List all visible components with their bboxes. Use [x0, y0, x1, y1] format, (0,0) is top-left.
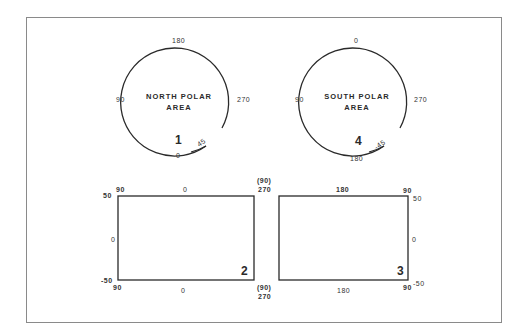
equatorial-rect-3	[279, 196, 408, 280]
rect2-top-right-paren: (90)	[257, 177, 271, 184]
rect2-bottom-right-paren: (90)	[257, 284, 271, 291]
rect2-top-center: 0	[183, 186, 187, 193]
rect3-top-right-lat: 50	[413, 195, 422, 202]
rect2-bottom-left-lat: -50	[101, 277, 113, 284]
north-title: NORTH POLAR AREA	[139, 92, 219, 112]
north-label-right: 270	[237, 96, 250, 103]
south-title: SOUTH POLAR AREA	[317, 92, 397, 112]
panel-number-3: 3	[397, 264, 404, 278]
north-label-top: 180	[172, 37, 185, 44]
rect2-top-right: 270	[258, 186, 271, 193]
south-title-line2: AREA	[317, 103, 397, 112]
equatorial-rect-2	[118, 196, 254, 280]
north-label-left: 90	[116, 96, 125, 103]
north-title-line2: AREA	[139, 103, 219, 112]
north-label-bottom: 0	[176, 152, 180, 159]
rect2-bottom-left-lon: 90	[113, 284, 122, 291]
south-label-right: 270	[414, 96, 427, 103]
south-title-line1: SOUTH POLAR	[317, 92, 397, 101]
diagram-lines	[0, 0, 527, 328]
rect2-bottom-center: 0	[181, 287, 185, 294]
south-label-bottom: 180	[350, 155, 363, 162]
rect2-top-left-lat: 50	[103, 192, 112, 199]
panel-number-4: 4	[355, 134, 362, 148]
south-label-top: 0	[354, 37, 358, 44]
rect2-top-left-lon: 90	[116, 186, 125, 193]
north-title-line1: NORTH POLAR	[139, 92, 219, 101]
rect3-top-right-lon: 90	[403, 187, 412, 194]
rect2-bottom-right: 270	[258, 293, 271, 300]
rect3-bottom-center: 180	[337, 287, 350, 294]
panel-number-2: 2	[241, 264, 248, 278]
rect3-bottom-right-lon: 90	[403, 284, 412, 291]
rect3-top-center: 180	[336, 186, 349, 193]
rect2-mid-left: 0	[111, 236, 115, 243]
south-label-left: 90	[295, 96, 304, 103]
rect3-bottom-right-lat: -50	[413, 280, 425, 287]
panel-number-1: 1	[175, 133, 182, 147]
rect3-mid-right: 0	[412, 236, 416, 243]
